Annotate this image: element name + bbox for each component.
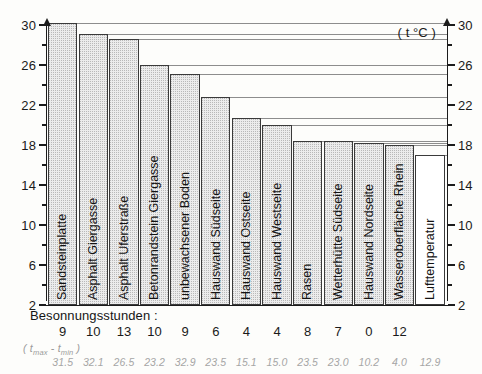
leader-line-3: [169, 65, 448, 66]
delta-value-0: 31.5: [47, 356, 79, 368]
delta-value-10: 10.2: [353, 356, 385, 368]
bar-1: Asphalt Giergasse: [79, 34, 108, 305]
y-tick-label-26: 26: [458, 58, 473, 73]
y-tick-20: [448, 124, 452, 125]
delta-value-4: 32.9: [169, 356, 201, 368]
y-tick-label-26: 26: [21, 58, 36, 73]
sun-hours-value-8: 8: [294, 324, 322, 339]
delta-value-2: 26.5: [108, 356, 140, 368]
leader-line-9: [353, 141, 448, 142]
bar-12: Lufttemperatur: [415, 155, 444, 305]
bar-7: Hauswand Westseite: [262, 125, 291, 305]
y-tick-label-14: 14: [21, 178, 36, 193]
bar-4: unbewachsener Boden: [170, 74, 199, 305]
bar-10: Hauswand Nordseite: [354, 143, 383, 305]
leader-line-6: [261, 118, 448, 119]
y-tick-14: [39, 184, 46, 185]
leader-line-11: [414, 145, 448, 146]
y-tick-label-6: 6: [458, 258, 465, 273]
y-tick-6: [39, 264, 46, 265]
sun-hours-value-2: 13: [110, 324, 138, 339]
y-tick-30: [448, 24, 455, 25]
sun-hours-value-10: 0: [355, 324, 383, 339]
y-tick-18: [448, 144, 455, 145]
y-tick-label-22: 22: [458, 98, 473, 113]
y-tick-6: [448, 264, 455, 265]
delta-value-12: 12.9: [414, 356, 446, 368]
y-tick-4: [42, 284, 46, 285]
y-tick-label-18: 18: [21, 138, 36, 153]
y-tick-12: [448, 204, 452, 205]
sun-hours-value-4: 9: [171, 324, 199, 339]
y-tick-8: [42, 244, 46, 245]
sun-hours-value-7: 4: [263, 324, 291, 339]
y-tick-18: [39, 144, 46, 145]
y-tick-12: [42, 204, 46, 205]
bar-6: Hauswand Ostseite: [232, 118, 261, 305]
y-axis-left: [46, 25, 47, 301]
y-tick-20: [42, 124, 46, 125]
sun-hours-value-6: 4: [232, 324, 260, 339]
y-tick-16: [42, 164, 46, 165]
y-tick-8: [448, 244, 452, 245]
delta-value-7: 15.0: [261, 356, 293, 368]
bar-8: Rasen: [293, 141, 322, 305]
delta-value-11: 4.0: [383, 356, 415, 368]
leader-line-0: [77, 23, 448, 24]
y-tick-26: [448, 64, 455, 65]
leader-line-5: [230, 97, 448, 98]
chart-page: SandsteinplatteAsphalt GiergasseAsphalt …: [0, 0, 482, 374]
sun-hours-title: Besonnungsstunden :: [30, 308, 158, 323]
y-tick-26: [39, 64, 46, 65]
delta-value-1: 32.1: [77, 356, 109, 368]
plot-area: SandsteinplatteAsphalt GiergasseAsphalt …: [46, 10, 448, 305]
y-tick-label-18: 18: [458, 138, 473, 153]
delta-title: ( tmax - tmin ): [23, 342, 80, 357]
y-tick-label-30: 30: [458, 18, 473, 33]
y-tick-10: [39, 224, 46, 225]
y-tick-22: [448, 104, 455, 105]
delta-value-6: 15.1: [230, 356, 262, 368]
y-tick-4: [448, 284, 452, 285]
delta-value-5: 23.5: [200, 356, 232, 368]
bar-3: Betonrandstein Giergasse: [140, 65, 169, 305]
y-tick-28: [42, 44, 46, 45]
leader-line-4: [200, 74, 448, 75]
sun-hours-value-11: 12: [385, 324, 413, 339]
sun-hours-value-3: 10: [141, 324, 169, 339]
sun-hours-value-5: 6: [202, 324, 230, 339]
bar-0: Sandsteinplatte: [48, 23, 77, 305]
bar-9: Wetterhütte Südseite: [324, 141, 353, 305]
sun-hours-value-9: 7: [324, 324, 352, 339]
y-tick-10: [448, 224, 455, 225]
y-tick-24: [42, 84, 46, 85]
y-axis-right: [447, 25, 448, 301]
delta-value-9: 23.0: [322, 356, 354, 368]
bar-5: Hauswand Südseite: [201, 97, 230, 305]
sun-hours-value-0: 9: [49, 324, 77, 339]
y-tick-label-14: 14: [458, 178, 473, 193]
bar-11: Wasseroberfläche Rhein: [385, 145, 414, 305]
y-tick-label-10: 10: [21, 218, 36, 233]
delta-value-8: 23.5: [292, 356, 324, 368]
y-tick-16: [448, 164, 452, 165]
y-tick-label-6: 6: [29, 258, 36, 273]
leader-line-7: [292, 125, 448, 126]
y-tick-label-10: 10: [458, 218, 473, 233]
y-tick-28: [448, 44, 452, 45]
y-tick-label-30: 30: [21, 18, 36, 33]
y-tick-label-22: 22: [21, 98, 36, 113]
unit-label: ( t °C ): [398, 25, 437, 40]
bottom-data-block: Besonnungsstunden : ( tmax - tmin ) 9101…: [0, 306, 482, 374]
y-tick-30: [39, 24, 46, 25]
y-tick-24: [448, 84, 452, 85]
leader-line-10: [384, 143, 448, 144]
y-tick-14: [448, 184, 455, 185]
y-tick-22: [39, 104, 46, 105]
sun-hours-value-1: 10: [79, 324, 107, 339]
bar-2: Asphalt Uferstraße: [109, 39, 138, 305]
delta-value-3: 23.2: [139, 356, 171, 368]
